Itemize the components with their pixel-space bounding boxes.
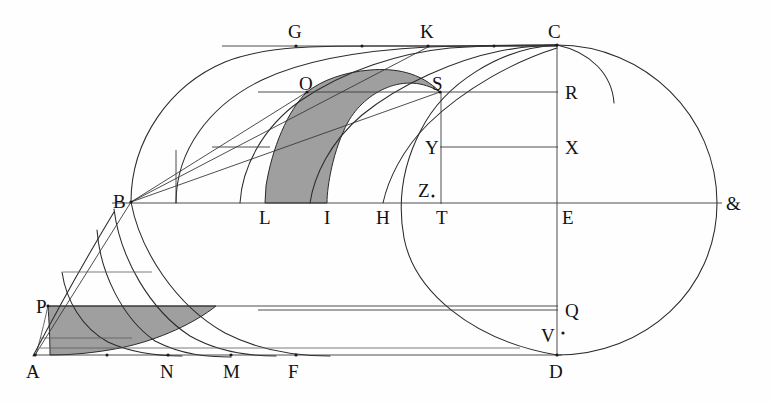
dot-mid-GK (361, 45, 364, 48)
label-R: R (565, 82, 578, 103)
dot-V (561, 331, 564, 334)
dot-B (129, 200, 132, 203)
label-P: P (36, 296, 47, 317)
dot-Z (432, 195, 435, 198)
dot-P (46, 304, 49, 307)
dot-K (426, 44, 429, 47)
outer-boundary-group (557, 45, 717, 355)
label-Q: Q (565, 300, 579, 321)
label-I: I (324, 207, 330, 228)
label-T: T (436, 207, 448, 228)
label-M: M (223, 361, 240, 382)
arc-fifth-upper (383, 48, 557, 203)
dot-G (294, 44, 297, 47)
arc-B-G-second (176, 45, 557, 203)
label-B: B (113, 191, 126, 212)
dot-F (294, 353, 297, 356)
dot-C (555, 43, 558, 46)
dot-baseline-left (106, 354, 109, 357)
dot-D (555, 353, 558, 356)
label-D: D (549, 361, 563, 382)
label-Y: Y (425, 137, 439, 158)
label-E: E (562, 207, 574, 228)
label-H: H (376, 207, 390, 228)
right-semicircle-arc (557, 45, 717, 355)
label-O: O (299, 73, 313, 94)
dot-M (229, 353, 232, 356)
label-Z: Z (418, 180, 430, 201)
dot-A (33, 353, 36, 356)
label-L: L (259, 207, 271, 228)
label-K: K (420, 21, 434, 42)
label-A: A (26, 361, 40, 382)
label-X: X (565, 137, 579, 158)
dot-N (166, 353, 169, 356)
label-F: F (288, 361, 299, 382)
label-C: C (548, 21, 561, 42)
shaded-region-upper-strip (265, 70, 440, 203)
label-G: G (288, 21, 302, 42)
label-V: V (541, 325, 555, 346)
label-ampersand: & (726, 193, 741, 214)
label-S: S (432, 73, 443, 94)
dot-mid-KC (493, 45, 496, 48)
diagram-canvas: G K C O S R Y X Z B L I H T E & P Q V A … (0, 0, 771, 402)
label-N: N (160, 361, 174, 382)
geometric-figure-root: G K C O S R Y X Z B L I H T E & P Q V A … (0, 0, 771, 402)
